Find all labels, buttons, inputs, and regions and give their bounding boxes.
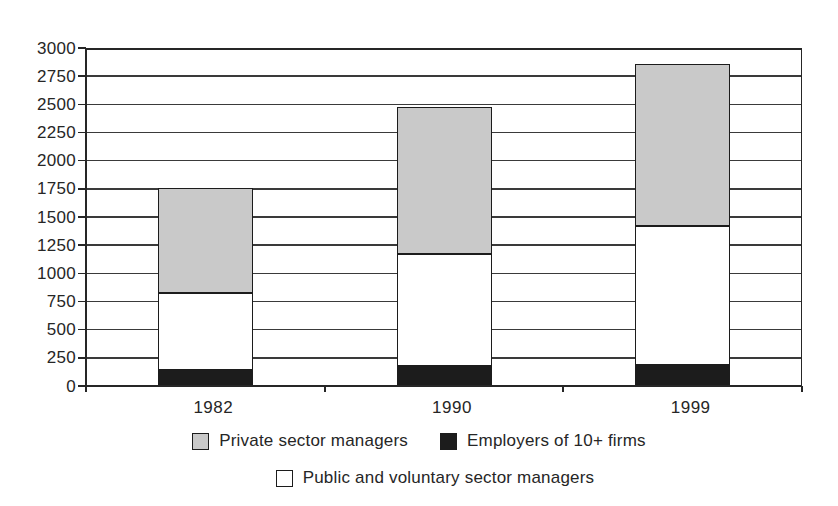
x-axis-label-1999: 1999 (646, 398, 736, 418)
x-tick (801, 386, 803, 392)
axis-line (801, 48, 803, 386)
stacked-bar-chart-figure: 0250500750100012501500175020002250250027… (0, 0, 838, 506)
axis-line (86, 48, 802, 50)
legend-row-2: Public and voluntary sector managers (16, 468, 838, 488)
y-tick-label: 750 (0, 292, 76, 311)
legend-swatch-employers (440, 433, 457, 450)
legend-swatch-private (192, 433, 209, 450)
legend-item-employers: Employers of 10+ firms (440, 431, 646, 451)
bar-1999-employers-segment (635, 365, 730, 386)
y-axis-labels: 0250500750100012501500175020002250250027… (0, 48, 76, 386)
x-tick (324, 386, 326, 392)
y-tick-label: 1000 (0, 264, 76, 283)
bar-1999-private-segment (635, 64, 730, 226)
axis-line (85, 385, 802, 387)
legend-label-employers: Employers of 10+ firms (467, 431, 646, 451)
axis-line (85, 48, 87, 392)
y-tick-label: 3000 (0, 39, 76, 58)
legend-label-private: Private sector managers (219, 431, 408, 451)
x-axis-label-1982: 1982 (168, 398, 258, 418)
y-tick-label: 1750 (0, 179, 76, 198)
legend-item-private: Private sector managers (192, 431, 408, 451)
bar-1982-public-segment (158, 293, 253, 371)
legend-label-public: Public and voluntary sector managers (303, 468, 595, 488)
y-tick-label: 0 (0, 377, 76, 396)
plot-area (86, 48, 802, 386)
y-tick-label: 500 (0, 320, 76, 339)
bar-1999-public-segment (635, 226, 730, 365)
legend-row-1: Private sector managersEmployers of 10+ … (0, 431, 838, 451)
y-tick-label: 2250 (0, 123, 76, 142)
legend-swatch-public (276, 470, 293, 487)
bar-1990-private-segment (397, 107, 492, 255)
legend-item-public: Public and voluntary sector managers (276, 468, 595, 488)
bar-1982-private-segment (158, 188, 253, 293)
y-tick-label: 2750 (0, 67, 76, 86)
y-tick-label: 2000 (0, 151, 76, 170)
bar-1990-employers-segment (397, 366, 492, 386)
y-tick-label: 1250 (0, 236, 76, 255)
y-tick-label: 1500 (0, 208, 76, 227)
x-axis-label-1990: 1990 (407, 398, 497, 418)
x-tick (562, 386, 564, 392)
y-tick-label: 2500 (0, 95, 76, 114)
y-tick-label: 250 (0, 348, 76, 367)
bar-1990-public-segment (397, 254, 492, 366)
